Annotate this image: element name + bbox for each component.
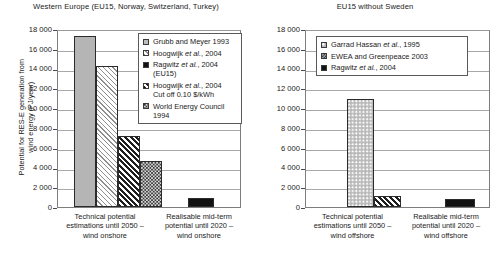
gridline-12000-right <box>306 90 489 91</box>
gridline-8000-right <box>306 130 489 131</box>
legend-item-hoogwijk-2004[interactable]: Hoogwijk et al., 2004 <box>143 49 237 58</box>
gridline-2000-right <box>306 189 489 190</box>
chart-title-left: Western Europe (EU15, Norway, Switzerlan… <box>8 2 244 12</box>
legend-label-ewea-greenpeace-2003: EWEA and Greenpeace 2003 <box>331 52 428 61</box>
legend-label-world-energy-council-1994: World Energy Council 1994 <box>153 102 224 120</box>
legend-label-ragwitz-right-post: , 2004 <box>375 63 396 72</box>
x-category-label-realisable-offshore: Realisable mid-term potential until 2020… <box>400 212 492 240</box>
chart-panel-western-europe: Western Europe (EU15, Norway, Switzerlan… <box>0 0 250 254</box>
bar-world-energy-council-1994-technical[interactable] <box>140 161 162 207</box>
y-tick-label-4000-right: 4 000 <box>266 164 300 172</box>
legend-item-world-energy-council-1994[interactable]: World Energy Council 1994 <box>143 102 237 120</box>
y-tick-0-right <box>301 208 305 209</box>
legend-item-grubb-meyer-1993[interactable]: Grubb and Meyer 1993 <box>143 37 237 46</box>
legend-label-hoogwijk-cutoff-pre: Hoogwijk <box>153 81 185 90</box>
legend-item-ragwitz-2004-eu15[interactable]: Ragwitz et al., 2004 (EU15) <box>143 60 237 78</box>
legend-label-hoogwijk-2004-pre: Hoogwijk <box>153 49 185 58</box>
x-category-label-technical-onshore: Technical potential estimations until 20… <box>57 212 153 240</box>
y-tick-label-8000-left: 8 000 <box>18 125 52 133</box>
y-tick-label-12000-left: 12 000 <box>18 85 52 93</box>
y-tick-label-0-right: 0 <box>266 204 300 212</box>
y-tick-label-2000-left: 2 000 <box>18 184 52 192</box>
legend-label-hoogwijk-2004-em: et al. <box>185 49 201 58</box>
legend-item-garrad-hassan-1995[interactable]: Garrad Hassan et al., 1995 <box>321 40 463 49</box>
x-category-label-realisable-onshore: Realisable mid-term potential until 2020… <box>153 212 245 240</box>
chart-title-right: EU15 without Sweden <box>253 2 497 12</box>
legend-label-hoogwijk-2004: Hoogwijk et al., 2004 <box>153 49 222 58</box>
y-tick-label-18000-right: 18 000 <box>266 26 300 34</box>
legend-swatch-hoogwijk-2004-icon <box>143 50 149 56</box>
legend-swatch-grubb-meyer-1993-icon <box>143 39 149 45</box>
legend-item-ewea-greenpeace-2003[interactable]: EWEA and Greenpeace 2003 <box>321 52 463 61</box>
legend-swatch-ragwitz-2004-icon <box>143 62 149 68</box>
bar-hoogwijk-2004-technical[interactable] <box>96 66 118 207</box>
y-tick-label-10000-left: 10 000 <box>18 105 52 113</box>
y-tick-label-2000-right: 2 000 <box>266 184 300 192</box>
legend-label-hoogwijk-2004-cutoff: Hoogwijk et al., 2004 Cut off 0.10 $/kWh <box>153 81 222 99</box>
y-tick-label-8000-right: 8 000 <box>266 125 300 133</box>
y-tick-label-18000-left: 18 000 <box>18 26 52 34</box>
legend-label-garrad-hassan-em: et al. <box>383 40 399 49</box>
y-axis-title-left-line1: Potential for RES-E generation from <box>17 37 26 197</box>
bar-hoogwijk-2004-cutoff-technical[interactable] <box>118 136 140 207</box>
x-category-label-technical-offshore: Technical potential estimations until 20… <box>305 212 400 240</box>
legend-label-hoogwijk-cutoff-em: et al. <box>185 81 201 90</box>
y-tick-0-left <box>53 208 57 209</box>
gridline-4000-right <box>306 170 489 171</box>
legend-label-garrad-hassan-pre: Garrad Hassan <box>331 40 383 49</box>
bar-ragwitz-2004-realisable-offshore[interactable] <box>445 199 475 207</box>
legend-label-garrad-hassan-1995: Garrad Hassan et al., 1995 <box>331 40 420 49</box>
bar-garrad-hassan-1995-technical[interactable] <box>347 99 374 207</box>
bar-ewea-greenpeace-2003-technical[interactable] <box>374 196 401 207</box>
y-tick-label-6000-left: 6 000 <box>18 145 52 153</box>
legend-label-ragwitz-2004-em: et al. <box>181 60 197 69</box>
legend-right[interactable]: Garrad Hassan et al., 1995 EWEA and Gree… <box>316 36 468 76</box>
y-tick-label-16000-left: 16 000 <box>18 46 52 54</box>
legend-swatch-hoogwijk-2004-cutoff-icon <box>143 83 149 89</box>
chart-panel-eu15-without-sweden: EU15 without Sweden 18 000 16 000 14 000… <box>253 0 497 254</box>
legend-label-ragwitz-right-em: et al. <box>359 63 375 72</box>
figure-wind-energy-potentials: Western Europe (EU15, Norway, Switzerlan… <box>0 0 497 254</box>
legend-item-ragwitz-2004-right[interactable]: Ragwitz et al., 2004 <box>321 63 463 72</box>
legend-label-grubb-meyer-1993: Grubb and Meyer 1993 <box>153 37 229 46</box>
legend-label-ragwitz-2004-right: Ragwitz et al., 2004 <box>331 63 396 72</box>
gridline-10000-right <box>306 110 489 111</box>
y-tick-label-14000-left: 14 000 <box>18 65 52 73</box>
y-tick-label-16000-right: 16 000 <box>266 46 300 54</box>
legend-swatch-world-energy-council-icon <box>143 103 149 109</box>
y-axis-title-left-line2: wind energy (PJ/year) <box>26 37 35 197</box>
y-tick-label-0-left: 0 <box>18 204 52 212</box>
legend-swatch-garrad-hassan-icon <box>321 42 327 48</box>
legend-left[interactable]: Grubb and Meyer 1993 Hoogwijk et al., 20… <box>138 33 242 124</box>
legend-swatch-ragwitz-2004-right-icon <box>321 65 327 71</box>
y-tick-label-14000-right: 14 000 <box>266 65 300 73</box>
legend-item-hoogwijk-2004-cutoff[interactable]: Hoogwijk et al., 2004 Cut off 0.10 $/kWh <box>143 81 237 99</box>
legend-label-hoogwijk-2004-post: , 2004 <box>201 49 222 58</box>
y-axis-title-left: Potential for RES-E generation from wind… <box>17 37 35 197</box>
y-tick-label-4000-left: 4 000 <box>18 164 52 172</box>
legend-label-garrad-hassan-post: , 1995 <box>399 40 420 49</box>
legend-label-ragwitz-2004-eu15: Ragwitz et al., 2004 (EU15) <box>153 60 218 78</box>
bar-ragwitz-2004-realisable[interactable] <box>188 198 214 207</box>
legend-label-ragwitz-right-pre: Ragwitz <box>331 63 359 72</box>
legend-label-ragwitz-2004-pre: Ragwitz <box>153 60 181 69</box>
y-tick-label-6000-right: 6 000 <box>266 145 300 153</box>
y-tick-label-10000-right: 10 000 <box>266 105 300 113</box>
gridline-6000-right <box>306 150 489 151</box>
y-tick-label-12000-right: 12 000 <box>266 85 300 93</box>
legend-swatch-ewea-greenpeace-icon <box>321 53 327 59</box>
bar-grubb-meyer-1993-technical[interactable] <box>74 36 96 207</box>
